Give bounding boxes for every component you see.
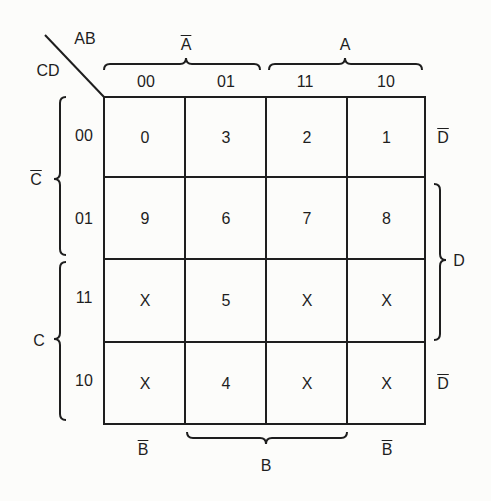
column-header-00: 00 [137,74,155,90]
corner-label-ab: AB [74,31,95,47]
kmap-cell-r1-c0: 9 [105,178,185,259]
kmap-cell-r0-c3: 1 [348,98,425,177]
kmap-cell-r2-c0: X [105,260,185,342]
bottom-label-b-bar-right: B [382,442,393,458]
row-header-00: 00 [75,128,93,144]
column-header-11: 11 [297,74,314,90]
brace-c [54,262,66,420]
right-label-d: D [453,253,465,269]
brace-c-bar [54,97,66,255]
brace-a-bar [104,58,260,70]
kmap-cell-r0-c1: 3 [186,98,266,177]
kmap-cell-r3-c0: X [105,343,185,424]
kmap-cell-r3-c2: X [267,343,347,424]
kmap-cell-r0-c2: 2 [267,98,347,177]
kmap-cell-r0-c0: 0 [105,98,185,177]
kmap-cell-r3-c3: X [348,343,425,424]
row-header-10: 10 [75,373,93,389]
right-label-d-bar-top: D [437,130,449,146]
kmap-cell-r2-c2: X [267,260,347,342]
right-label-d-bar-bottom: D [437,376,449,392]
kmap-cell-r3-c1: 4 [186,343,266,424]
column-header-01: 01 [217,74,235,90]
brace-b [187,432,347,444]
group-label-c-bar: C [30,172,42,188]
kmap-cell-r1-c1: 6 [186,178,266,259]
kmap-cell-r2-c3: X [348,260,425,342]
group-label-a-bar: A [181,37,192,53]
brace-a [269,58,422,70]
column-header-10: 10 [377,74,395,90]
kmap-cell-r2-c1: 5 [186,260,266,342]
brace-d [434,184,446,340]
row-header-01: 01 [75,211,93,227]
row-header-11: 11 [76,290,93,306]
kmap-cell-r1-c2: 7 [267,178,347,259]
group-label-c: C [33,333,45,349]
corner-label-cd: CD [36,63,59,79]
group-label-a: A [340,37,351,53]
bottom-label-b: B [261,458,272,474]
kmap-cell-r1-c3: 8 [348,178,425,259]
bottom-label-b-bar-left: B [138,442,149,458]
